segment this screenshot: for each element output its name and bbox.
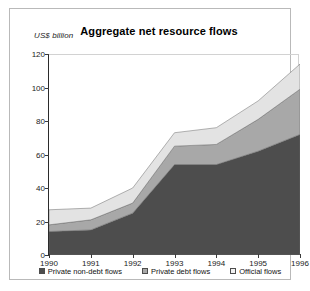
y-tick-label: 60: [36, 150, 45, 159]
x-tick-mark: [133, 254, 134, 258]
x-tick-mark: [300, 254, 301, 258]
y-tick-mark: [45, 222, 49, 223]
y-tick-label: 120: [32, 50, 45, 59]
legend-swatch-icon: [39, 268, 45, 274]
y-tick-label: 20: [36, 217, 45, 226]
legend-swatch-icon: [230, 268, 236, 274]
legend-item: Private debt flows: [142, 267, 210, 276]
y-axis-label: US$ billion: [34, 31, 73, 40]
y-tick-label: 40: [36, 184, 45, 193]
x-tick-mark: [91, 254, 92, 258]
stacked-area-series: [49, 54, 300, 255]
legend-label: Private debt flows: [151, 267, 210, 276]
y-tick-mark: [45, 188, 49, 189]
y-tick-mark: [45, 121, 49, 122]
y-tick-label: 100: [32, 83, 45, 92]
chart-legend: Private non-debt flowsPrivate debt flows…: [9, 264, 301, 278]
y-tick-mark: [45, 54, 49, 55]
x-tick-mark: [49, 254, 50, 258]
legend-label: Private non-debt flows: [48, 267, 122, 276]
legend-item: Private non-debt flows: [39, 267, 122, 276]
legend-label: Official flows: [239, 267, 281, 276]
y-tick-mark: [45, 88, 49, 89]
x-tick-mark: [258, 254, 259, 258]
x-tick-mark: [216, 254, 217, 258]
plot-area: 020406080100120 199019911992199319941995…: [48, 54, 299, 255]
y-tick-label: 80: [36, 117, 45, 126]
y-tick-mark: [45, 155, 49, 156]
legend-item: Official flows: [230, 267, 281, 276]
legend-swatch-icon: [142, 268, 148, 274]
chart-frame: Aggregate net resource flows US$ billion…: [9, 8, 291, 280]
x-tick-mark: [175, 254, 176, 258]
